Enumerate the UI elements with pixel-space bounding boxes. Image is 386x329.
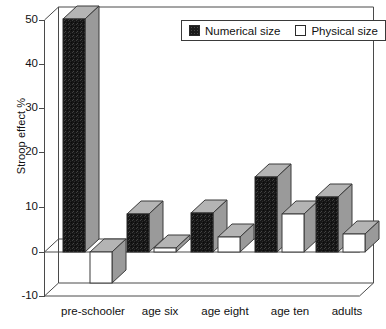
y-tick-label: 20 xyxy=(25,145,38,157)
x-tick-adults: adults xyxy=(309,305,385,317)
bar-numerical-pre-schooler xyxy=(63,6,99,252)
bar-group-pre-schooler xyxy=(63,6,126,283)
y-tick-20: 20 xyxy=(8,145,38,159)
bar-group-age-six xyxy=(127,201,190,252)
legend: Numerical size Physical size xyxy=(181,20,386,41)
y-tick-40: 40 xyxy=(8,57,38,71)
y-tick-label: -10 xyxy=(21,289,38,301)
y-tick-label: 10 xyxy=(25,200,38,212)
legend-item-physical-size: Physical size xyxy=(295,25,377,37)
y-tick-0: 0 xyxy=(8,245,38,259)
frame-depth-zero xyxy=(45,239,59,252)
legend-swatch-numerical-size xyxy=(189,25,200,36)
frame-depth-top xyxy=(45,7,59,20)
y-tick-label: 50 xyxy=(25,13,38,25)
legend-label-numerical-size: Numerical size xyxy=(205,25,280,37)
y-tick-30: 30 xyxy=(8,101,38,115)
legend-item-numerical-size: Numerical size xyxy=(189,25,280,37)
y-tick-50: 50 xyxy=(8,13,38,27)
frame-depth-bottom xyxy=(45,283,59,296)
y-tick-label: 40 xyxy=(25,57,38,69)
bar-physical-pre-schooler xyxy=(90,239,126,283)
legend-label-physical-size: Physical size xyxy=(311,25,377,37)
bar-group-age-eight xyxy=(191,200,254,252)
y-axis-title: Stroop effect % xyxy=(15,76,27,196)
y-tick-label: 0 xyxy=(32,245,38,257)
y-tick-minus-10: -10 xyxy=(2,289,38,303)
legend-swatch-physical-size xyxy=(295,25,306,36)
bar-physical-age-ten xyxy=(282,201,318,252)
bar-group-age-ten xyxy=(255,164,318,252)
y-tick-10: 10 xyxy=(8,200,38,214)
floor-right-edge xyxy=(360,283,374,296)
y-tick-label: 30 xyxy=(25,101,38,113)
bar-group-adults xyxy=(316,184,379,252)
